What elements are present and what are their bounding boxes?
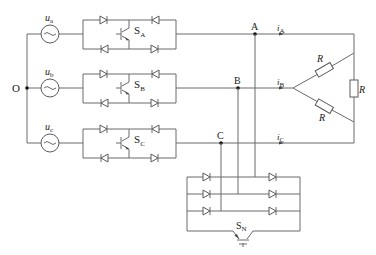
svg-text:iA: iA: [277, 23, 285, 35]
source-uc: [41, 134, 83, 152]
source-ub: [41, 79, 83, 97]
node-c-label: C: [217, 130, 224, 141]
node-b-label: B: [234, 75, 241, 86]
svg-text:iC: iC: [277, 132, 285, 144]
source-ub-label: ub: [45, 66, 54, 79]
neutral-node-dot: [25, 86, 29, 90]
resistor-ab-label: R: [316, 53, 323, 64]
resistor-ca-label: R: [358, 84, 365, 95]
source-ua-label: ua: [45, 12, 54, 25]
neutral-rectifier: [187, 173, 300, 247]
switch-sn-label: SN: [236, 220, 247, 233]
bridge-phase-b: [83, 70, 293, 107]
svg-text:iB: iB: [277, 77, 285, 89]
circuit-diagram: O ua ub uc: [0, 0, 376, 255]
switch-sb-label: SB: [134, 78, 145, 93]
source-uc-label: uc: [45, 121, 53, 134]
node-a-label: A: [251, 21, 259, 32]
node-c: [219, 141, 223, 211]
switch-sc-label: SC: [134, 133, 145, 148]
node-b: [236, 86, 240, 194]
switch-sa-label: SA: [134, 24, 145, 39]
delta-load: [293, 34, 358, 143]
node-a: [253, 32, 257, 177]
neutral-node-label: O: [12, 82, 20, 94]
resistor-ab: [315, 63, 333, 78]
left-bus: [25, 34, 41, 143]
source-ua: [41, 25, 83, 43]
resistor-ca: [350, 80, 358, 97]
resistor-bc-label: R: [318, 112, 325, 123]
bridge-phase-a: [83, 16, 354, 53]
